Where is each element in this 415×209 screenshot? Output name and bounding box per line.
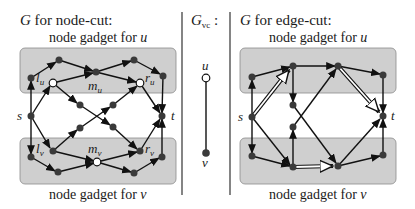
- edge-node-v-a: [290, 164, 297, 171]
- edge-node-mid-1: [290, 102, 297, 109]
- node-u-right-out: [160, 73, 167, 80]
- edge-label-t: t: [391, 108, 395, 123]
- edge-cut-title: G for edge-cut:: [240, 12, 332, 28]
- edge-node-u-b: [335, 63, 342, 70]
- node-cut-bottom-caption: node gadget for v: [49, 187, 147, 202]
- edge-node-s: [249, 114, 256, 121]
- label-t: t: [171, 108, 175, 123]
- node-cross-1: [77, 102, 84, 109]
- node-lu: [49, 79, 57, 87]
- edge-node-u-a: [290, 63, 297, 70]
- vc-label-u: u: [202, 58, 209, 73]
- figure-canvas: G for node-cut: node gadget for u: [0, 0, 415, 209]
- edge-node-u-out: [380, 72, 387, 79]
- label-s: s: [17, 108, 22, 123]
- node-s: [28, 113, 35, 120]
- vc-title: Gvc :: [191, 12, 218, 30]
- vc-label-v: v: [202, 155, 208, 170]
- edge-label-s: s: [238, 109, 243, 124]
- node-v-right-out: [159, 154, 166, 161]
- node-cross-3: [77, 125, 84, 132]
- node-mu: [93, 69, 100, 76]
- node-cross-2: [110, 124, 117, 131]
- node-v-bottom-left: [55, 169, 62, 176]
- node-u-top-right: [131, 57, 138, 64]
- node-v-left-in: [28, 154, 35, 161]
- edge-node-v-in: [249, 153, 256, 160]
- node-u-top-left: [56, 57, 63, 64]
- node-u-left-in: [28, 75, 35, 82]
- vc-panel: Gvc : u v: [191, 12, 218, 170]
- edge-node-v-out: [380, 152, 387, 159]
- node-rv: [137, 148, 144, 155]
- edge-node-u-in: [249, 74, 256, 81]
- vc-node-u: [202, 74, 210, 82]
- edge-cut-top-caption: node gadget for u: [269, 30, 367, 45]
- edge-cut-bottom-caption: node gadget for v: [269, 187, 367, 202]
- edge-node-v-b: [335, 163, 342, 170]
- node-mv: [93, 158, 101, 166]
- node-lv: [50, 148, 57, 155]
- node-v-bottom-right: [131, 170, 138, 177]
- edge-node-t: [380, 113, 387, 120]
- node-t: [159, 113, 166, 120]
- node-ru: [136, 79, 144, 87]
- node-cross-4: [110, 102, 117, 109]
- edge-cut-panel: G for edge-cut: node gadget for u: [238, 12, 396, 202]
- edge-node-mid-2: [290, 124, 297, 131]
- edge-gadget-v-box: [240, 138, 396, 184]
- node-cut-panel: G for node-cut: node gadget for u: [17, 12, 176, 202]
- node-cut-title: G for node-cut:: [20, 12, 112, 28]
- node-cut-top-caption: node gadget for u: [49, 30, 147, 45]
- edge-gadget-u-box: [240, 48, 396, 93]
